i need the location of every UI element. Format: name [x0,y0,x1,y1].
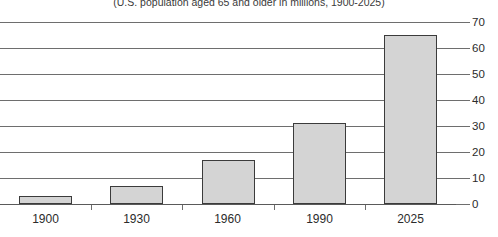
y-tick-mark [456,126,470,127]
x-tick-label: 1990 [274,212,365,226]
y-tick-label: 20 [472,146,496,158]
x-tick-mark [91,205,92,210]
y-tick-mark [456,22,470,23]
y-tick-label: 10 [472,172,496,184]
y-tick-mark [456,178,470,179]
bar [384,35,437,204]
x-tick-mark [365,205,366,210]
y-tick-mark [456,48,470,49]
y-tick-mark [456,74,470,75]
bars-group [0,22,456,205]
plot-area: 010203040506070 [0,22,498,205]
bar [19,196,72,204]
y-tick-mark [456,152,470,153]
x-tick-mark [274,205,275,210]
bar [110,186,163,204]
y-tick-label: 50 [472,68,496,80]
chart-title: (U.S. population aged 65 and older in mi… [0,0,498,10]
y-tick-label: 40 [472,94,496,106]
y-tick-mark [456,100,470,101]
y-tick-label: 30 [472,120,496,132]
x-axis: 19001930196019902025 [0,205,498,237]
x-tick-label: 1930 [91,212,182,226]
x-tick-label: 1900 [0,212,91,226]
bar [202,160,255,204]
bar-chart-figure: (U.S. population aged 65 and older in mi… [0,0,498,237]
x-tick-mark [182,205,183,210]
x-tick-label: 2025 [365,212,456,226]
y-tick-label: 70 [472,16,496,28]
x-tick-label: 1960 [182,212,273,226]
bar [293,123,346,204]
y-tick-label: 60 [472,42,496,54]
